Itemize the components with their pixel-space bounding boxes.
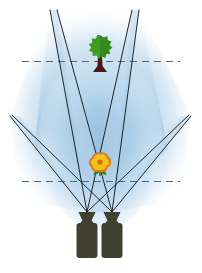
diagram-canvas: [0, 0, 202, 273]
left-camera-body: [77, 223, 98, 258]
right-camera-body: [102, 223, 123, 258]
stereo-vision-diagram: Stereo camera convergence diagram tree f…: [0, 0, 202, 273]
flower-center: [97, 159, 102, 164]
